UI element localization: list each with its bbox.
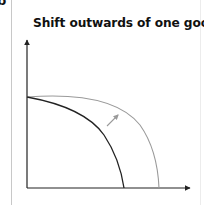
original-ppf-curve [27, 97, 124, 188]
ppf-diagram [0, 0, 204, 205]
shift-arrow [107, 115, 118, 126]
shifted-ppf-curve [27, 96, 159, 188]
